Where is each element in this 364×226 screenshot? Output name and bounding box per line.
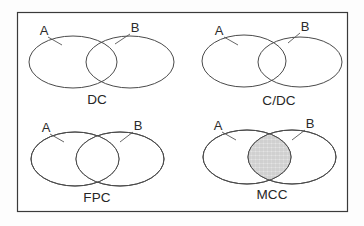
dc-label-a: A [40, 23, 49, 38]
venn-diagram-figure: A B DC A B C/DC A B FPC [0, 0, 364, 226]
dc-panel-label: DC [87, 92, 107, 107]
figure-root: A B DC A B C/DC A B FPC [0, 0, 364, 226]
mcc-label-b: B [306, 116, 315, 131]
mcc-panel-label: MCC [256, 187, 287, 202]
cdc-panel-label: C/DC [262, 93, 296, 108]
mcc-label-a: A [214, 118, 223, 133]
fpc-label-b: B [134, 118, 143, 133]
dc-label-b: B [131, 20, 140, 35]
fpc-panel-label: FPC [83, 190, 110, 205]
cdc-label-a: A [215, 23, 224, 38]
fpc-label-a: A [42, 120, 51, 135]
cdc-label-b: B [301, 19, 310, 34]
figure-frame [18, 13, 348, 212]
